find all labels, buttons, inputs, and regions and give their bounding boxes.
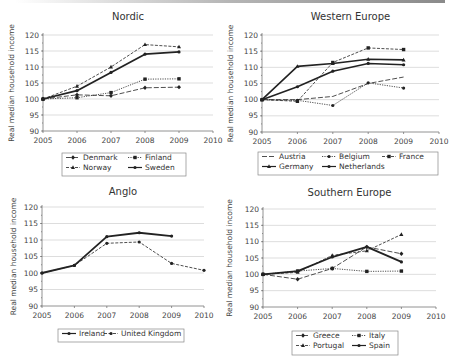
y-tick-label: 120 — [25, 31, 40, 40]
x-tick-label: 2009 — [394, 137, 413, 146]
legend-item-label: Portugal — [313, 341, 344, 350]
y-tick-label: 120 — [244, 31, 259, 40]
x-tick-label: 2006 — [288, 312, 307, 321]
legend: GreeceItalyPortugalSpain — [292, 331, 398, 355]
chart-title: Southern Europe — [308, 187, 392, 198]
x-tick-label: 2009 — [169, 136, 188, 145]
y-tick-label: 105 — [24, 252, 39, 261]
chart-panel-nordic: Nordic9095100105110115120200520062007200… — [7, 11, 223, 176]
x-tick-label: 2006 — [65, 311, 84, 320]
legend-item-label: Germany — [279, 162, 314, 171]
x-tick-label: 2007 — [323, 137, 342, 146]
series-greece — [261, 245, 403, 282]
chart-title: Nordic — [112, 11, 144, 22]
x-tick-label: 2005 — [253, 312, 272, 321]
y-tick-label: 105 — [245, 254, 260, 263]
y-tick-label: 115 — [25, 47, 40, 56]
y-tick-label: 100 — [244, 95, 259, 104]
y-tick-label: 110 — [25, 63, 40, 72]
legend-item-label: Netherlands — [339, 162, 385, 171]
chart-title: Western Europe — [311, 11, 390, 22]
y-tick-label: 115 — [24, 219, 39, 228]
x-tick-label: 2010 — [426, 312, 445, 321]
x-tick-label: 2007 — [323, 312, 342, 321]
y-tick-label: 90 — [249, 303, 259, 312]
x-tick-label: 2006 — [67, 136, 86, 145]
legend-item-label: Austria — [279, 152, 306, 161]
y-tick-label: 120 — [24, 203, 39, 212]
x-tick-label: 2009 — [392, 312, 411, 321]
y-tick-label: 95 — [29, 111, 39, 120]
x-tick-label: 2005 — [252, 137, 271, 146]
y-axis-label: Real median household income — [9, 197, 18, 315]
y-tick-label: 90 — [29, 127, 39, 136]
y-tick-label: 120 — [245, 205, 260, 214]
legend-item-label: Finland — [145, 153, 172, 162]
legend-item-label: Denmark — [83, 153, 118, 162]
x-tick-label: 2005 — [33, 136, 52, 145]
chart-title: Anglo — [109, 186, 137, 197]
legend-item-label: Spain — [369, 341, 390, 350]
y-tick-label: 90 — [28, 302, 38, 311]
x-tick-label: 2007 — [97, 311, 116, 320]
y-axis-label: Real median household income — [7, 24, 16, 142]
x-tick-label: 2010 — [194, 311, 213, 320]
x-tick-label: 2009 — [162, 311, 181, 320]
legend-item-label: Greece — [313, 331, 340, 340]
legend-item-label: Norway — [83, 163, 112, 172]
x-tick-label: 2006 — [288, 137, 307, 146]
legend-item-label: United Kingdom — [121, 329, 181, 338]
y-axis-label: Real median household income — [225, 199, 234, 317]
y-tick-label: 95 — [248, 111, 258, 120]
y-tick-label: 95 — [249, 286, 259, 295]
legend-item-label: France — [399, 152, 424, 161]
x-tick-label: 2008 — [357, 312, 376, 321]
y-axis-label: Real median household income — [226, 24, 235, 142]
y-tick-label: 110 — [244, 63, 259, 72]
y-tick-label: 115 — [244, 47, 259, 56]
chart-panel-southern-europe: Southern Europe9095100105110115120200520… — [225, 187, 446, 355]
legend: IrelandUnited Kingdom — [58, 329, 184, 342]
x-tick-label: 2005 — [32, 311, 51, 320]
legend: DenmarkFinlandNorwaySweden — [62, 153, 186, 176]
legend-item-label: Sweden — [145, 163, 175, 172]
chart-panel-anglo: Anglo90951001051101151202005200620072008… — [9, 186, 214, 342]
y-tick-label: 110 — [24, 236, 39, 245]
y-tick-label: 100 — [24, 269, 39, 278]
y-tick-label: 100 — [25, 95, 40, 104]
x-tick-label: 2008 — [135, 136, 154, 145]
legend-item-label: Ireland — [79, 329, 105, 338]
x-tick-label: 2010 — [429, 137, 448, 146]
series-united-kingdom — [40, 240, 205, 274]
y-tick-label: 115 — [245, 221, 260, 230]
y-tick-label: 90 — [248, 128, 258, 137]
figure-canvas: Nordic9095100105110115120200520062007200… — [0, 0, 454, 361]
legend: AustriaBelgiumFranceGermanyNetherlands — [258, 152, 438, 175]
series-belgium — [260, 81, 405, 107]
x-tick-label: 2010 — [203, 136, 222, 145]
series-ireland — [40, 231, 173, 274]
x-tick-label: 2008 — [130, 311, 149, 320]
series-france — [260, 46, 405, 103]
chart-panel-western-europe: Western Europe90951001051101151202005200… — [226, 11, 449, 175]
x-tick-label: 2008 — [359, 137, 378, 146]
y-tick-label: 105 — [25, 79, 40, 88]
legend-item-label: Belgium — [339, 152, 370, 161]
x-tick-label: 2007 — [101, 136, 120, 145]
y-tick-label: 100 — [245, 270, 260, 279]
legend-item-label: Italy — [369, 331, 386, 340]
y-tick-label: 105 — [244, 79, 259, 88]
y-tick-label: 110 — [245, 237, 260, 246]
y-tick-label: 95 — [28, 285, 38, 294]
